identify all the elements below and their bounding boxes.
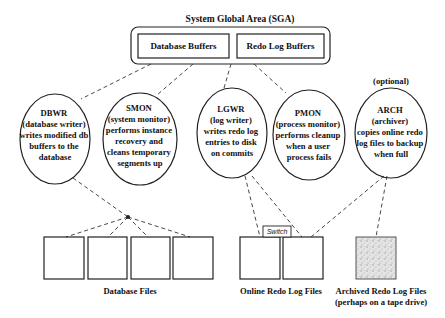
connector-redo-lgwr — [224, 64, 231, 88]
arch-name: ARCH — [377, 105, 403, 115]
process-dbwr: DBWR (database writer) writes modified d… — [20, 94, 91, 184]
lgwr-name: LGWR — [217, 104, 245, 114]
pmon-line: performs cleanup — [276, 130, 341, 140]
redo-log-buffers-label: Redo Log Buffers — [247, 41, 315, 51]
arch-line: log files to backup — [357, 138, 424, 148]
connector-sga-smon — [157, 64, 193, 95]
smon-line: (system monitor) — [108, 114, 170, 124]
database-files-label: Database Files — [103, 286, 157, 296]
dbwr-line: writes modified db — [20, 130, 89, 140]
dbwr-line: buffers to the — [29, 141, 78, 151]
switch-label: Switch — [267, 228, 288, 235]
database-buffers-box: Database Buffers — [138, 34, 229, 58]
connector-arch-archive — [376, 176, 387, 237]
smon-line: performs instance — [106, 125, 172, 135]
lgwr-text: LGWR (log writer) writes redo log entrie… — [204, 104, 260, 158]
dbwr-text: DBWR (database writer) writes modified d… — [20, 108, 91, 162]
pmon-text: PMON (process monitor) performs cleanup … — [276, 108, 343, 162]
lgwr-line: on commits — [211, 148, 254, 158]
sga-title: System Global Area (SGA) — [186, 14, 295, 25]
online-redo-log-files-group: Switch Online Redo Log Files — [240, 226, 323, 296]
arch-line: (archiver) — [372, 116, 409, 126]
connector-buffers-dbwr — [81, 64, 151, 99]
online-redo-log-files-label: Online Redo Log Files — [240, 286, 323, 296]
dbwr-line: (database writer) — [22, 119, 85, 129]
database-file — [44, 237, 84, 279]
database-files-group: Database Files — [44, 237, 213, 296]
process-arch: (optional) ARCH (archiver) copies online… — [355, 76, 427, 178]
smon-line: cleans temporary — [107, 147, 171, 157]
arch-line: copies online redo — [357, 127, 423, 137]
smon-line: segments up — [117, 158, 162, 168]
connector-arch-log2 — [311, 176, 384, 237]
database-file — [88, 237, 127, 279]
database-file — [173, 237, 213, 279]
sga-group: System Global Area (SGA) Database Buffer… — [131, 14, 330, 64]
process-pmon: PMON (process monitor) performs cleanup … — [273, 90, 345, 180]
dbwr-line: database — [39, 152, 72, 162]
dbwr-name: DBWR — [41, 108, 69, 118]
pmon-line: process fails — [287, 152, 332, 162]
process-smon: SMON (system monitor) performs instance … — [103, 93, 177, 185]
junction-dot — [126, 215, 130, 219]
lgwr-line: entries to disk — [205, 137, 257, 147]
pmon-line: when a user — [286, 141, 330, 151]
process-lgwr: LGWR (log writer) writes redo log entrie… — [197, 88, 267, 178]
online-redo-log-file — [240, 237, 280, 279]
database-file — [131, 237, 170, 279]
archived-redo-log-files-label: Archived Redo Log Files — [336, 286, 427, 296]
lgwr-line: (log writer) — [210, 115, 252, 125]
connector-files-4 — [128, 217, 190, 237]
connector-files-1 — [66, 217, 128, 237]
smon-line: recovery and — [115, 136, 163, 146]
arch-text: ARCH (archiver) copies online redo log f… — [357, 105, 426, 159]
arch-optional-note: (optional) — [373, 76, 409, 86]
archived-redo-log-file — [356, 237, 396, 279]
online-redo-log-file — [283, 237, 323, 279]
oracle-architecture-diagram: System Global Area (SGA) Database Buffer… — [0, 0, 445, 318]
database-buffers-label: Database Buffers — [150, 41, 217, 51]
lgwr-line: writes redo log — [204, 126, 259, 136]
connector-lgwr-log1 — [245, 176, 260, 237]
arch-line: when full — [374, 149, 409, 159]
pmon-line: (process monitor) — [276, 119, 341, 129]
connector-dbwr-files — [73, 178, 128, 217]
pmon-name: PMON — [295, 108, 322, 118]
archived-redo-log-files-group: Archived Redo Log Files (perhaps on a ta… — [335, 237, 427, 307]
connector-redo-pmon — [254, 64, 286, 93]
archived-redo-log-files-sublabel: (perhaps on a tape drive) — [335, 297, 427, 307]
smon-text: SMON (system monitor) performs instance … — [106, 103, 174, 168]
smon-name: SMON — [126, 103, 153, 113]
redo-log-buffers-box: Redo Log Buffers — [237, 34, 324, 58]
